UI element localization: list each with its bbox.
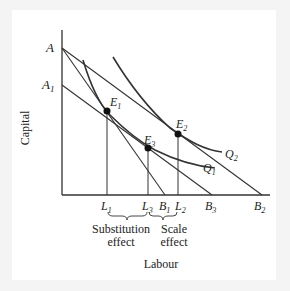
brace-substitution [108, 212, 147, 220]
isoquant-diagram: A A1 E1 E3 E2 Q2 Q1 L1 L3 B1 L2 B3 B2 Su… [0, 0, 290, 291]
point-E2 [175, 131, 182, 138]
tick-B1: B1 [159, 199, 170, 215]
substitution-effect-label-2: effect [107, 235, 135, 249]
scale-effect-label-1: Scale [161, 222, 187, 236]
tick-B3: B3 [205, 199, 216, 215]
label-Q2: Q2 [225, 147, 238, 163]
budget-line-AB1 [62, 48, 165, 195]
isoquant-Q1 [83, 60, 215, 168]
label-E2: E2 [175, 117, 187, 133]
label-E1: E1 [109, 95, 121, 111]
tick-B2: B2 [254, 199, 265, 215]
label-E3: E3 [143, 133, 155, 149]
brace-scale [149, 212, 177, 220]
tick-L2: L2 [174, 199, 186, 215]
substitution-effect-label-1: Substitution [92, 222, 150, 236]
x-axis-title: Labour [144, 257, 179, 271]
scale-effect-label-2: effect [160, 235, 188, 249]
isoquant-Q2 [113, 57, 222, 152]
label-Q1: Q1 [203, 161, 216, 177]
tick-L1: L1 [100, 199, 112, 215]
label-A: A [45, 40, 54, 55]
label-A1: A1 [41, 77, 54, 94]
y-axis-title: Capital [18, 110, 32, 145]
